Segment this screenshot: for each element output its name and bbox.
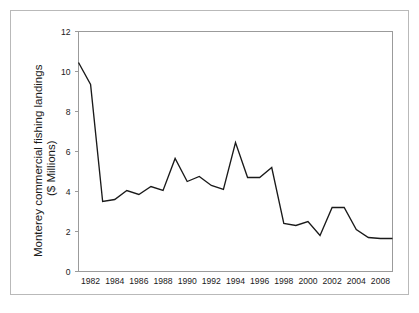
x-tick-label: 2000 bbox=[298, 276, 317, 286]
x-tick-label: 1988 bbox=[153, 276, 172, 286]
x-axis-tick-labels: 1982198419861988199019921994199619982000… bbox=[81, 276, 390, 286]
plot-area-border bbox=[79, 32, 393, 272]
y-tick-label: 0 bbox=[66, 267, 71, 277]
x-tick-label: 1994 bbox=[226, 276, 245, 286]
y-axis-title: Monterey commercial fishing landings ($ … bbox=[32, 64, 57, 257]
x-tick-label: 1982 bbox=[81, 276, 100, 286]
y-axis-title-line1: Monterey commercial fishing landings bbox=[32, 64, 44, 257]
x-tick-label: 1990 bbox=[178, 276, 197, 286]
y-tick-label: 4 bbox=[66, 187, 71, 197]
y-axis-tick-labels: 024681012 bbox=[61, 27, 71, 277]
x-tick-label: 2002 bbox=[323, 276, 342, 286]
x-tick-label: 2004 bbox=[347, 276, 366, 286]
line-chart: Monterey commercial fishing landings ($ … bbox=[0, 0, 419, 313]
x-tick-label: 1984 bbox=[105, 276, 124, 286]
data-series-line bbox=[79, 63, 393, 239]
x-tick-label: 1998 bbox=[274, 276, 293, 286]
x-tick-label: 1992 bbox=[202, 276, 221, 286]
y-axis-tick-marks bbox=[75, 32, 79, 272]
chart-figure: Monterey commercial fishing landings ($ … bbox=[0, 0, 419, 313]
x-tick-label: 2008 bbox=[371, 276, 390, 286]
x-tick-label: 1996 bbox=[250, 276, 269, 286]
y-tick-label: 8 bbox=[66, 107, 71, 117]
y-tick-label: 10 bbox=[61, 67, 71, 77]
y-axis-title-line2: ($ Millions) bbox=[45, 140, 57, 196]
x-tick-label: 1986 bbox=[129, 276, 148, 286]
y-tick-label: 12 bbox=[61, 27, 71, 37]
y-tick-label: 2 bbox=[66, 227, 71, 237]
y-tick-label: 6 bbox=[66, 147, 71, 157]
